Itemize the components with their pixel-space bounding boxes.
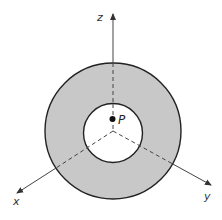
diagram-canvas: z x y P (0, 0, 222, 220)
x-axis-label: x (12, 195, 20, 208)
point-p-label: P (118, 113, 126, 127)
y-axis-label: y (203, 190, 211, 203)
z-axis-label: z (96, 11, 103, 24)
point-p-dot (110, 116, 116, 122)
